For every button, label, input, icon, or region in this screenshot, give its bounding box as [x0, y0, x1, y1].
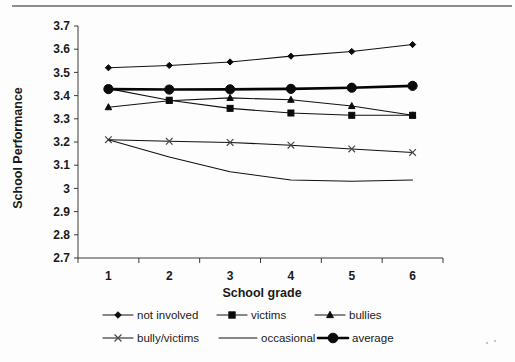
marker-diamond [115, 312, 122, 319]
marker-circle [104, 85, 113, 94]
marker-circle [286, 84, 295, 93]
legend-label: average [352, 332, 394, 344]
y-tick-label: 2.7 [53, 251, 70, 265]
marker-diamond [227, 59, 233, 65]
marker-square [349, 112, 355, 118]
legend-item-average[interactable]: average [318, 332, 394, 344]
y-tick-label: 2.9 [53, 205, 70, 219]
legend-item-victims[interactable]: victims [217, 309, 286, 321]
chart-series-group [104, 41, 417, 181]
marker-circle [328, 333, 338, 343]
marker-diamond [105, 65, 111, 71]
y-tick-label: 3.1 [53, 158, 70, 172]
line-chart: 3.73.63.53.43.33.23.132.92.82.7 123456 S… [0, 0, 515, 362]
x-tick-label: 2 [166, 269, 173, 283]
chart-page: 3.73.63.53.43.33.23.132.92.82.7 123456 S… [0, 0, 515, 362]
series-average [104, 81, 417, 94]
legend-item-not-involved[interactable]: not involved [103, 309, 198, 321]
marker-diamond [349, 48, 355, 54]
y-tick-label: 3.3 [53, 112, 70, 126]
marker-circle [225, 85, 234, 94]
marker-diamond [166, 62, 172, 68]
x-tick-label: 3 [227, 269, 234, 283]
series-path [108, 140, 412, 182]
chart-legend: not involvedvictimsbulliesbully/victimso… [103, 309, 394, 344]
series-path [108, 45, 412, 68]
series-path [108, 98, 412, 115]
marker-diamond [409, 41, 415, 47]
y-tick-label: 3.5 [53, 66, 70, 80]
y-tick-label: 3.2 [53, 135, 70, 149]
marker-circle [165, 85, 174, 94]
speck-dot [494, 340, 496, 342]
legend-label: bullies [349, 309, 382, 321]
x-tick-label: 4 [288, 269, 295, 283]
legend-label: bully/victims [137, 332, 199, 344]
legend-item-bully-victims[interactable]: bully/victims [103, 332, 199, 344]
marker-circle [347, 83, 356, 92]
legend-item-occasional[interactable]: occasional [219, 332, 315, 344]
speck-dot [486, 342, 488, 344]
marker-triangle [227, 94, 233, 100]
chart-canvas: 3.73.63.53.43.33.23.132.92.82.7 123456 S… [0, 0, 515, 362]
marker-square [229, 312, 235, 318]
y-tick-label: 3.6 [53, 42, 70, 56]
marker-square [227, 105, 233, 111]
legend-label: not involved [137, 309, 198, 321]
legend-label: victims [251, 309, 286, 321]
marker-circle [408, 81, 417, 90]
series-path [108, 140, 412, 153]
y-tick-label: 3.7 [53, 19, 70, 33]
x-tick-label: 6 [409, 269, 416, 283]
series-not-involved [105, 41, 415, 70]
y-axis: 3.73.63.53.43.33.23.132.92.82.7 [53, 19, 78, 265]
y-tick-label: 3 [63, 182, 70, 196]
series-bullies [105, 94, 416, 117]
x-axis: 123456 [78, 258, 443, 283]
x-tick-label: 1 [105, 269, 112, 283]
marker-square [288, 110, 294, 116]
legend-item-bullies[interactable]: bullies [315, 309, 382, 321]
marker-diamond [288, 53, 294, 59]
series-bully-victims [105, 136, 416, 155]
series-occasional [108, 140, 412, 182]
y-tick-label: 3.4 [53, 89, 70, 103]
x-tick-label: 5 [348, 269, 355, 283]
y-tick-label: 2.8 [53, 228, 70, 242]
legend-label: occasional [261, 332, 315, 344]
series-path [108, 86, 412, 90]
y-axis-title: School Performance [11, 87, 25, 209]
x-axis-title: School grade [222, 286, 301, 300]
